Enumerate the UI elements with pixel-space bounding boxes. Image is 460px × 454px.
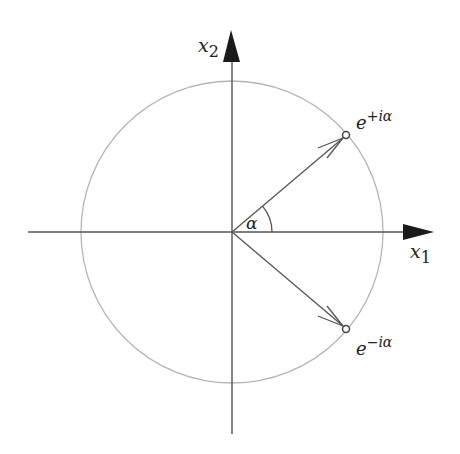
x1-axis-arrowhead-icon: [403, 224, 434, 240]
vector-lower: [232, 232, 343, 326]
point-upper-marker: [343, 132, 350, 139]
x2-axis-arrowhead-icon: [223, 30, 240, 62]
angle-arc: [263, 206, 273, 232]
point-lower-label: e−iα: [356, 334, 393, 359]
point-lower-marker: [343, 326, 350, 333]
x1-axis-label: x1: [410, 240, 431, 267]
point-upper-label: e+iα: [356, 108, 393, 133]
angle-label: α: [246, 213, 258, 233]
unit-circle-diagram: α x2 x1 e+iα e−iα: [0, 0, 460, 454]
x2-axis-label: x2: [198, 34, 219, 61]
